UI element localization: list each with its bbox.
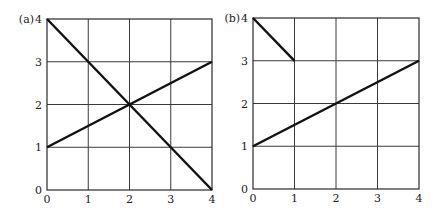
y-tick-label: 1: [35, 141, 42, 154]
x-tick-label: 1: [85, 193, 92, 206]
series-line-0: [253, 18, 295, 61]
figure-canvas: 0123401234(a) 0123401234(b): [0, 0, 443, 210]
chart-panel-a: 0123401234(a): [19, 13, 216, 206]
x-tick-label: 2: [333, 192, 340, 205]
y-tick-label: 3: [241, 55, 248, 68]
x-tick-label: 0: [250, 192, 257, 205]
y-tick-label: 4: [241, 12, 248, 25]
y-tick-label: 1: [241, 140, 248, 153]
y-tick-label: 2: [35, 99, 42, 112]
panel-label: (b): [224, 12, 240, 25]
y-tick-label: 0: [35, 184, 42, 197]
y-tick-label: 2: [241, 98, 248, 111]
x-tick-label: 2: [126, 193, 133, 206]
x-tick-label: 1: [291, 192, 298, 205]
x-tick-label: 4: [209, 193, 216, 206]
x-tick-label: 4: [416, 192, 423, 205]
y-tick-label: 4: [35, 13, 42, 26]
x-tick-label: 3: [167, 193, 174, 206]
panel-label: (a): [19, 13, 34, 26]
y-tick-label: 0: [241, 183, 248, 196]
y-tick-label: 3: [35, 56, 42, 69]
chart-panel-b: 0123401234(b): [224, 12, 422, 205]
x-tick-label: 3: [374, 192, 381, 205]
x-tick-label: 0: [44, 193, 51, 206]
